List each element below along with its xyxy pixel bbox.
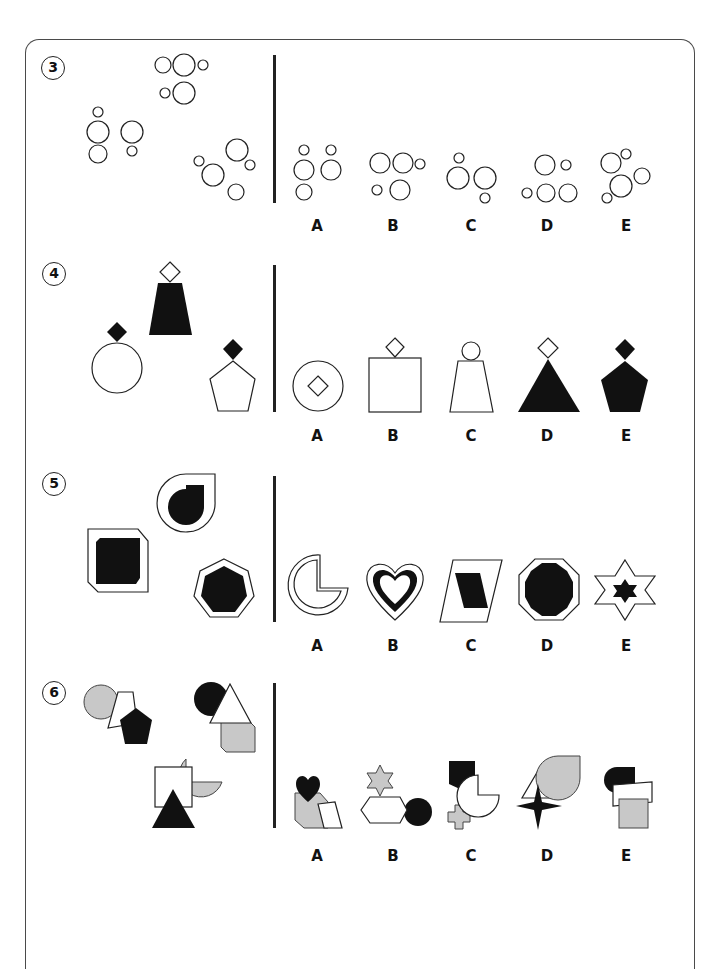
option-figures[interactable] (280, 740, 660, 840)
option-d-label[interactable]: D (532, 637, 562, 655)
option-e-label[interactable]: E (611, 847, 641, 865)
option-figures[interactable] (280, 540, 660, 630)
stem-figures (0, 0, 280, 850)
option-b-label[interactable]: B (378, 427, 408, 445)
option-c-label[interactable]: C (456, 637, 486, 655)
option-a-label[interactable]: A (302, 847, 332, 865)
option-a-figure[interactable] (280, 130, 660, 210)
option-b-label[interactable]: B (378, 637, 408, 655)
option-c-label[interactable]: C (456, 217, 486, 235)
option-b-label[interactable]: B (378, 217, 408, 235)
option-c-label[interactable]: C (456, 427, 486, 445)
option-figures[interactable] (280, 330, 660, 420)
option-e-label[interactable]: E (611, 637, 641, 655)
option-e-label[interactable]: E (611, 427, 641, 445)
option-a-label[interactable]: A (302, 217, 332, 235)
option-e-label[interactable]: E (611, 217, 641, 235)
option-a-label[interactable]: A (302, 427, 332, 445)
option-a-label[interactable]: A (302, 637, 332, 655)
option-d-label[interactable]: D (532, 217, 562, 235)
option-d-label[interactable]: D (532, 847, 562, 865)
option-d-label[interactable]: D (532, 427, 562, 445)
option-c-label[interactable]: C (456, 847, 486, 865)
option-b-label[interactable]: B (378, 847, 408, 865)
